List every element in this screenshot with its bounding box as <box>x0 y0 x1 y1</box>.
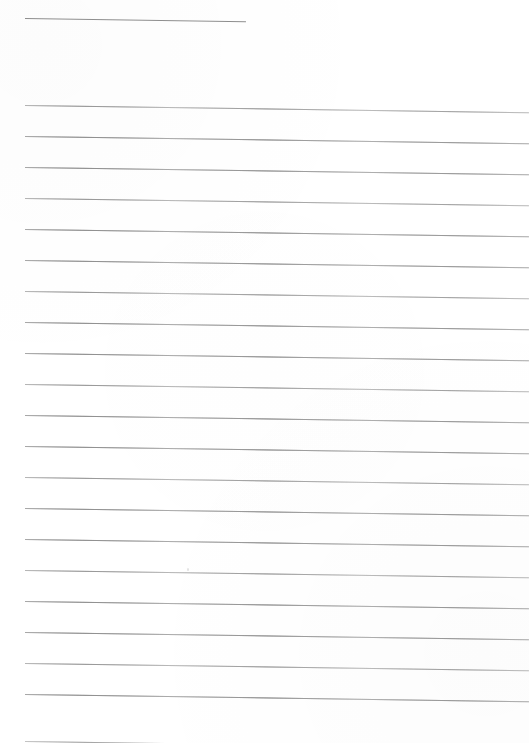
header-rule <box>25 18 246 22</box>
scanned-page <box>0 0 529 743</box>
handwriting-content <box>25 90 529 743</box>
